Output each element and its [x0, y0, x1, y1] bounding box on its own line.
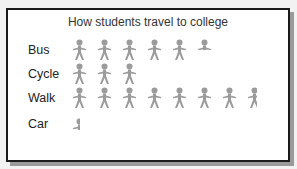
pictogram-row-car: Car — [8, 112, 80, 136]
person-icon — [170, 39, 189, 61]
partial-person-icon — [245, 87, 257, 109]
chart-title: How students travel to college — [8, 15, 288, 29]
pictogram-frame: How students travel to college Bus Cycle… — [6, 8, 290, 162]
partial-person-icon — [70, 118, 80, 130]
row-label: Walk — [8, 91, 70, 105]
person-icon — [120, 87, 139, 109]
person-icon — [220, 87, 239, 109]
pictogram-row-bus: Bus — [8, 38, 214, 62]
row-label: Car — [8, 117, 70, 131]
person-icon — [145, 87, 164, 109]
partial-person-icon — [195, 39, 214, 50]
person-icon — [95, 39, 114, 61]
person-icon — [95, 87, 114, 109]
row-label: Cycle — [8, 67, 70, 81]
person-icon — [170, 87, 189, 109]
person-icon — [70, 63, 89, 85]
person-icon — [95, 63, 114, 85]
pictogram-row-cycle: Cycle — [8, 62, 139, 86]
person-icon — [195, 87, 214, 109]
person-icon — [120, 63, 139, 85]
person-icon — [70, 87, 89, 109]
pictogram-row-walk: Walk — [8, 86, 257, 110]
person-icon — [70, 39, 89, 61]
person-icon — [120, 39, 139, 61]
row-label: Bus — [8, 43, 70, 57]
person-icon — [145, 39, 164, 61]
